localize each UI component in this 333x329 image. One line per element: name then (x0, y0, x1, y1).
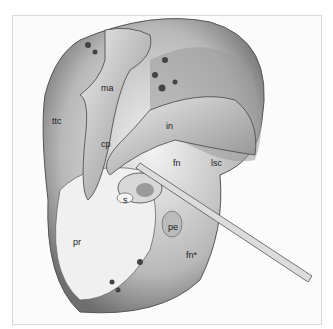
label-pr: pr (73, 238, 81, 247)
label-s: s (123, 196, 128, 205)
middle-ear-illustration (0, 0, 333, 329)
label-fn: fn (173, 159, 181, 168)
label-pe: pe (168, 223, 178, 232)
label-ma: ma (101, 84, 114, 93)
label-lsc: lsc (211, 159, 222, 168)
label-in: in (166, 122, 173, 131)
label-fn-star: fn* (186, 251, 197, 260)
label-ttc: ttc (52, 117, 62, 126)
label-cp: cp (101, 140, 111, 149)
